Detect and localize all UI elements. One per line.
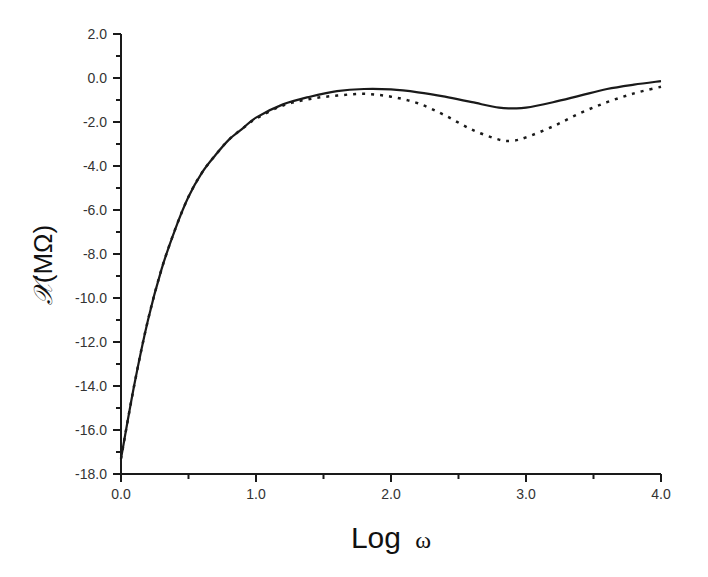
x-axis: 0.01.02.03.04.0 (111, 474, 671, 502)
y-tick-label: -10.0 (75, 290, 107, 306)
series-layer (121, 81, 661, 459)
y-axis-title: 𝒳(MΩ) (28, 225, 58, 305)
chart: 2.00.0-2.0-4.0-6.0-8.0-10.0-12.0-14.0-16… (0, 0, 708, 577)
y-tick-label: -2.0 (83, 114, 107, 130)
x-tick-label: 0.0 (111, 486, 131, 502)
y-tick-label: -12.0 (75, 334, 107, 350)
x-tick-label: 2.0 (381, 486, 401, 502)
y-tick-label: -8.0 (83, 246, 107, 262)
y-tick-label: -18.0 (75, 466, 107, 482)
series-dotted-line (121, 87, 661, 459)
x-axis-title: Log ω (351, 521, 431, 554)
y-tick-label: -6.0 (83, 202, 107, 218)
x-tick-label: 3.0 (516, 486, 536, 502)
x-tick-label: 4.0 (651, 486, 671, 502)
series-solid-line (121, 81, 661, 459)
y-tick-label: 0.0 (88, 70, 108, 86)
y-tick-label: -14.0 (75, 378, 107, 394)
y-axis: 2.00.0-2.0-4.0-6.0-8.0-10.0-12.0-14.0-16… (75, 26, 121, 482)
y-tick-label: -16.0 (75, 422, 107, 438)
y-tick-label: -4.0 (83, 158, 107, 174)
x-tick-label: 1.0 (246, 486, 266, 502)
y-tick-label: 2.0 (88, 26, 108, 42)
